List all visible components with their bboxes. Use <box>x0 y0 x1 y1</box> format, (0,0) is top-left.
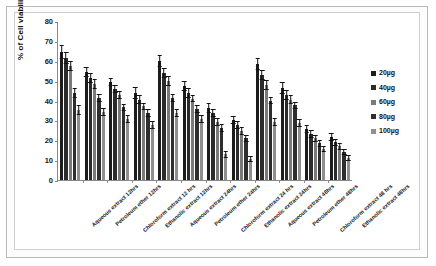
legend-swatch-icon <box>371 114 376 119</box>
error-bar <box>125 115 130 123</box>
error-bar <box>157 55 162 67</box>
bar <box>158 61 161 180</box>
y-tick-label: 60 <box>45 57 53 66</box>
bar <box>175 113 178 180</box>
bar <box>142 106 145 180</box>
bar-group <box>132 22 157 180</box>
error-bar <box>248 156 253 162</box>
bar <box>187 93 190 180</box>
y-tick-label: 50 <box>45 77 53 86</box>
error-bar <box>268 97 273 105</box>
error-bar <box>255 58 260 70</box>
y-tick-label: 30 <box>45 116 53 125</box>
legend-swatch-icon <box>371 129 376 134</box>
bar-group <box>303 22 328 180</box>
error-bar <box>223 151 228 158</box>
error-bar <box>264 80 269 90</box>
bar-group <box>254 22 279 180</box>
chart-screenshot: % of Cell viability 80706050403020100 Aq… <box>0 0 436 266</box>
error-bar <box>174 109 179 117</box>
legend-label: 20µg <box>379 69 395 77</box>
bar-group <box>181 22 206 180</box>
error-bar <box>121 104 126 112</box>
legend-swatch-icon <box>371 85 376 90</box>
error-bar <box>211 109 216 117</box>
bar <box>293 105 296 180</box>
bar-group <box>156 22 181 180</box>
error-bar <box>146 109 151 117</box>
y-axis-title: % of Cell viability <box>16 0 25 60</box>
legend-item[interactable]: 40µg <box>371 81 429 96</box>
bar <box>249 159 252 180</box>
error-bar <box>272 118 277 126</box>
legend-label: 40µg <box>379 84 395 92</box>
bar <box>347 158 350 180</box>
error-bar <box>72 88 77 98</box>
error-bar <box>117 91 122 99</box>
bar-group <box>205 22 230 180</box>
bar <box>109 82 112 180</box>
bar-group <box>230 22 255 180</box>
y-tick-label: 0 <box>49 176 53 185</box>
bar <box>126 119 129 180</box>
error-bar <box>166 76 171 86</box>
bar <box>183 86 186 180</box>
bar <box>269 101 272 181</box>
bar <box>273 122 276 180</box>
legend-item[interactable]: 100µg <box>371 124 429 139</box>
error-bar <box>346 155 351 161</box>
error-bar <box>76 105 81 115</box>
bar <box>77 110 80 180</box>
bar-group <box>328 22 353 180</box>
error-bar <box>199 115 204 123</box>
bar <box>281 88 284 180</box>
chart-legend: 20µg40µg60µg80µg100µg <box>371 66 429 139</box>
legend-item[interactable]: 20µg <box>371 66 429 81</box>
error-bar <box>195 105 200 113</box>
bar <box>260 75 263 180</box>
error-bar <box>297 119 302 127</box>
bar <box>113 89 116 180</box>
error-bar <box>190 95 195 103</box>
legend-item[interactable]: 60µg <box>371 95 429 110</box>
bar <box>134 93 137 180</box>
error-bar <box>244 135 249 142</box>
error-bar <box>260 70 265 80</box>
bar <box>289 100 292 180</box>
error-bar <box>293 102 298 110</box>
bar <box>138 100 141 180</box>
bar <box>224 154 227 180</box>
bar <box>207 108 210 180</box>
bar <box>200 119 203 180</box>
error-bar <box>92 79 97 89</box>
bar-group <box>107 22 132 180</box>
error-bar <box>321 146 326 152</box>
bar-groups <box>58 22 352 180</box>
y-tick-label: 70 <box>45 37 53 46</box>
legend-swatch-icon <box>371 71 376 76</box>
bar-group <box>58 22 83 180</box>
bar <box>256 64 259 180</box>
plot-area: 80706050403020100 <box>57 22 352 181</box>
bar <box>60 52 63 180</box>
legend-label: 100µg <box>379 127 399 135</box>
error-bar <box>219 124 224 132</box>
bar <box>162 73 165 180</box>
error-bar <box>97 94 102 102</box>
legend-label: 60µg <box>379 98 395 106</box>
y-tick-label: 20 <box>45 136 53 145</box>
y-tick-label: 40 <box>45 97 53 106</box>
bar <box>151 125 154 180</box>
bar-group <box>279 22 304 180</box>
x-axis-labels: Aqueous extract 12hrsPetroleum ether 12h… <box>57 183 352 245</box>
legend-item[interactable]: 80µg <box>371 110 429 125</box>
y-tick-label: 80 <box>45 17 53 26</box>
bar <box>69 66 72 180</box>
legend-label: 80µg <box>379 113 395 121</box>
bar <box>232 120 235 180</box>
bar <box>89 78 92 180</box>
error-bar <box>150 121 155 129</box>
y-tick-mark <box>55 181 58 182</box>
bar <box>102 112 105 180</box>
bar <box>322 149 325 180</box>
